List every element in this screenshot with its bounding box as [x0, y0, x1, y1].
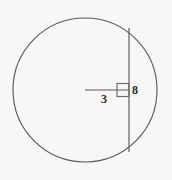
- chord-length-label: 8: [132, 84, 138, 96]
- figure-canvas: [0, 0, 172, 180]
- geometry-figure: 3 8: [0, 0, 172, 180]
- radius-length-label: 3: [101, 93, 107, 105]
